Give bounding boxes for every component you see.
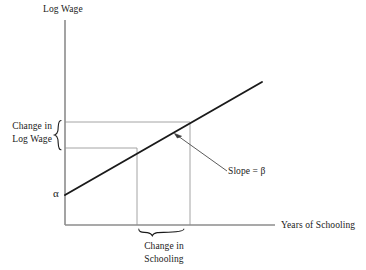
x-axis-label: Years of Schooling (281, 219, 355, 231)
y-axis-label: Log Wage (43, 3, 83, 15)
change-in-schooling-line1: Change in (120, 240, 208, 253)
intercept-alpha-label: α (53, 187, 59, 199)
slope-beta-label: Slope = β (228, 165, 265, 177)
change-in-log-wage-line2: Log Wage (4, 133, 52, 146)
regression-line (65, 82, 262, 195)
log-wage-schooling-diagram: Log Wage Years of Schooling α Slope = β … (0, 0, 366, 270)
change-in-schooling-label: Change in Schooling (120, 240, 208, 266)
change-in-log-wage-label: Change in Log Wage (4, 120, 52, 146)
change-in-schooling-line2: Schooling (120, 253, 208, 266)
brace-change-in-schooling (139, 229, 184, 236)
slope-callout-arrow-shaft (178, 136, 227, 171)
brace-change-in-log-wage (55, 121, 61, 150)
change-in-log-wage-line1: Change in (4, 120, 52, 133)
